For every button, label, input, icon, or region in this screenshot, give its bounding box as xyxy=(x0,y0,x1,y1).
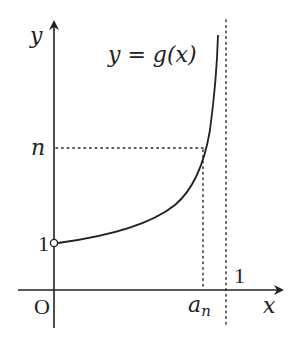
origin-label: O xyxy=(34,294,50,319)
x-axis-label: x xyxy=(263,293,276,318)
an-tick-label: an xyxy=(188,292,211,320)
open-circle-point xyxy=(50,239,57,246)
y-axis-label: y xyxy=(29,23,43,48)
curve-label: y = g(x) xyxy=(107,42,197,67)
n-tick-label: n xyxy=(31,135,45,160)
an-base: a xyxy=(188,292,201,317)
one-y-tick-label: 1 xyxy=(38,231,49,256)
an-subscript: n xyxy=(201,302,211,320)
one-x-tick-label: 1 xyxy=(234,263,245,288)
function-graph: y x O n 1 an 1 y = g(x) xyxy=(0,0,306,364)
